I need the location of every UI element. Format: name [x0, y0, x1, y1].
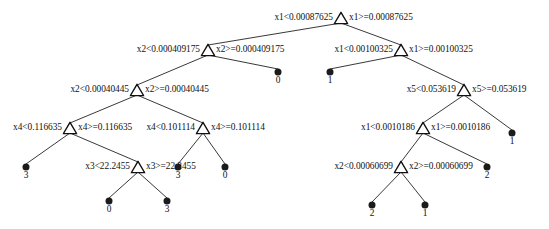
split-node-x4[interactable] [63, 122, 78, 135]
decision-tree-diagram: x1<0.00087625x1>=0.00087625x2<0.00040917… [0, 0, 549, 229]
split-node-x2[interactable] [394, 161, 409, 174]
leaf-value: 2 [370, 209, 375, 218]
split-label-left: x1<0.0010186 [361, 123, 416, 132]
tree-edge [109, 172, 138, 198]
split-label-right: x1>=0.00087625 [348, 13, 413, 22]
leaf-value: 1 [423, 209, 428, 218]
tree-edges-layer [0, 0, 549, 229]
split-node-x2[interactable] [130, 84, 145, 97]
split-label-left: x2<0.000409175 [137, 45, 201, 54]
split-label-right: x1>=0.0010186 [430, 123, 490, 132]
tree-edge [137, 95, 203, 123]
split-label-left: x1<0.00100325 [334, 45, 394, 54]
split-label-right: x2>=0.00060699 [408, 162, 473, 171]
tree-edge [208, 23, 341, 45]
leaf-value: 2 [485, 171, 490, 180]
tree-edge [423, 133, 487, 164]
tree-edge [341, 23, 401, 45]
tree-edge [70, 133, 138, 162]
tree-edge [330, 55, 401, 69]
leaf-value: 1 [328, 76, 333, 85]
split-label-right: x2>=0.00040445 [144, 85, 209, 94]
split-node-x5[interactable] [457, 84, 472, 97]
tree-edge [423, 95, 464, 123]
split-node-x2[interactable] [201, 44, 216, 57]
leaf-value: 3 [24, 171, 29, 180]
split-node-x1[interactable] [394, 44, 409, 57]
leaf-value: 0 [223, 171, 228, 180]
split-label-left: x1<0.00087625 [274, 13, 334, 22]
split-node-x3[interactable] [131, 161, 146, 174]
split-label-left: x2<0.00060699 [334, 162, 394, 171]
tree-edge [203, 133, 225, 164]
split-label-right: x3>=22.2455 [145, 162, 196, 171]
split-node-x4[interactable] [196, 122, 211, 135]
split-label-right: x4>=0.116635 [77, 123, 132, 132]
split-node-x1[interactable] [334, 12, 349, 25]
leaf-value: 3 [165, 205, 170, 214]
leaf-value: 3 [176, 171, 181, 180]
tree-edge [178, 133, 203, 164]
split-label-right: x5>=0.053619 [471, 85, 527, 94]
tree-edge [26, 133, 70, 164]
split-label-left: x4<0.116635 [13, 123, 63, 132]
leaf-value: 0 [276, 76, 281, 85]
split-label-left: x2<0.00040445 [70, 85, 130, 94]
leaf-value: 0 [107, 205, 112, 214]
split-label-right: x4>=0.101114 [210, 123, 265, 132]
split-label-left: x4<0.101114 [146, 123, 196, 132]
leaf-value: 1 [510, 137, 515, 146]
tree-edge [372, 172, 401, 202]
tree-edge [401, 172, 425, 202]
tree-edge [208, 55, 278, 69]
tree-edge [138, 172, 167, 198]
tree-edge [401, 133, 423, 162]
split-label-right: x2>=0.000409175 [215, 45, 284, 54]
tree-edge [70, 95, 137, 123]
split-node-x1[interactable] [416, 122, 431, 135]
split-label-left: x3<22.2455 [85, 162, 131, 171]
split-label-left: x5<0.053619 [407, 85, 457, 94]
tree-edge [137, 55, 208, 85]
split-label-right: x1>=0.00100325 [408, 45, 473, 54]
tree-edge [401, 55, 464, 85]
